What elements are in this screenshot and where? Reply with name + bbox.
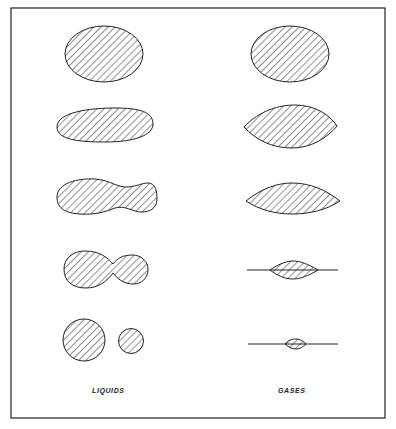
gas-stage-4-thin-lens bbox=[270, 261, 318, 279]
figure-border bbox=[11, 8, 385, 418]
liquid-stage-2-ellipsoid bbox=[57, 108, 153, 142]
liquid-stage-1-sphere bbox=[65, 26, 143, 82]
gas-stage-2-lens bbox=[244, 105, 337, 148]
liquids-column bbox=[57, 26, 157, 361]
liquid-stage-4-deep-neck bbox=[64, 251, 148, 288]
gas-stage-1-sphere bbox=[251, 26, 329, 82]
gas-stage-5-bead bbox=[285, 339, 306, 349]
liquid-stage-3-necking bbox=[57, 179, 157, 214]
liquids-label: LIQUIDS bbox=[92, 387, 125, 394]
gases-label: GASES bbox=[278, 387, 306, 394]
gas-stage-3-flat-lens bbox=[246, 183, 340, 214]
liquid-stage-5-droplet-large bbox=[63, 319, 105, 361]
diagram-canvas bbox=[0, 0, 396, 429]
gases-column bbox=[244, 26, 340, 349]
liquid-stage-5-droplet-small bbox=[119, 329, 144, 354]
